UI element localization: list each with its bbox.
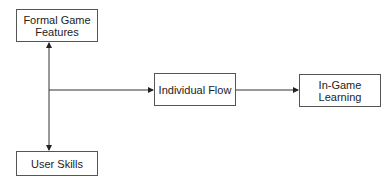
node-individual-flow: Individual Flow bbox=[154, 73, 236, 106]
node-in-game-learning: In-Game Learning bbox=[299, 74, 381, 107]
node-label: User Skills bbox=[31, 158, 83, 170]
node-formal-game-features: Formal Game Features bbox=[16, 9, 98, 42]
node-label: In-Game Learning bbox=[319, 79, 362, 103]
node-user-skills: User Skills bbox=[16, 151, 98, 176]
node-label: Individual Flow bbox=[159, 84, 232, 96]
node-label: Formal Game Features bbox=[23, 14, 90, 38]
